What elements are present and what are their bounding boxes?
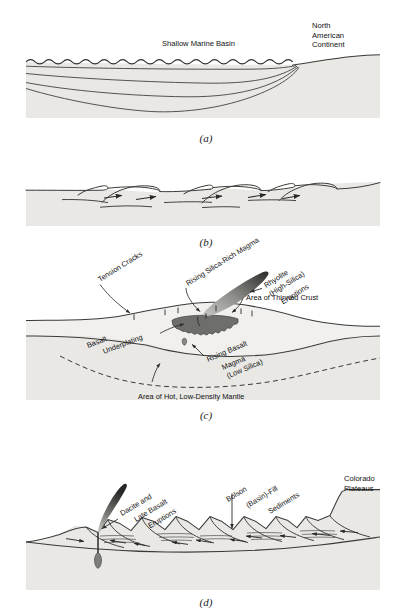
caption-panel-d: (d) <box>200 596 213 609</box>
caption-panel-a: (a) <box>200 132 213 145</box>
label-north-american-continent-line3: Continent <box>312 40 345 49</box>
label-north-american-continent-line2: American <box>312 31 344 40</box>
label-shallow-marine-basin: Shallow Marine Basin <box>162 39 235 48</box>
caption-panel-c: (c) <box>200 409 213 422</box>
geologic-cross-section-figure: Shallow Marine Basin North American Cont… <box>0 0 413 611</box>
panel-c-basalt-droplet-1 <box>182 338 186 345</box>
label-colorado-plateaus-line2: Plateaus <box>344 484 374 493</box>
caption-panel-b: (b) <box>200 236 213 249</box>
label-area-of-thinned-crust: Area of Thinned Crust <box>246 293 318 302</box>
label-colorado-plateaus-line1: Colorado <box>344 474 375 483</box>
label-north-american-continent-line1: North <box>312 21 331 30</box>
panel-d-magma-source-blob <box>95 552 102 568</box>
label-area-of-hot-low-density-mantle: Area of Hot, Low-Density Mantle <box>138 392 244 401</box>
